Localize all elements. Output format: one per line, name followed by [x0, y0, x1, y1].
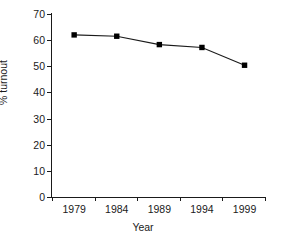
data-point-marker	[71, 32, 76, 37]
x-tick-label: 1999	[233, 204, 256, 215]
x-tick-label: 1984	[105, 204, 128, 215]
y-axis-title: % turnout	[0, 60, 8, 105]
data-point-marker	[157, 42, 162, 47]
x-tick-mark	[180, 197, 181, 201]
data-point-marker	[199, 45, 204, 50]
x-tick-mark	[265, 197, 266, 201]
data-point-marker	[114, 34, 119, 39]
data-point-marker	[242, 63, 247, 68]
series-line-turnout	[74, 35, 244, 65]
x-tick-mark	[222, 197, 223, 201]
x-tick-mark	[95, 197, 96, 201]
x-tick-mark	[137, 197, 138, 201]
x-tick-label: 1979	[62, 204, 85, 215]
x-axis-title: Year	[0, 222, 286, 233]
x-tick-mark	[52, 197, 53, 201]
x-tick-label: 1989	[148, 204, 171, 215]
x-tick-label: 1994	[190, 204, 213, 215]
chart-figure: 010203040506070 % turnout Year 197919841…	[0, 0, 286, 242]
series-markers	[71, 32, 247, 68]
